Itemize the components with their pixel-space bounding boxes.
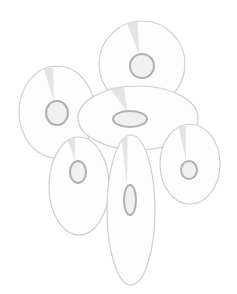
cd-discs-illustration: [0, 0, 237, 294]
discs-artwork: [0, 0, 237, 294]
disc-lower-left: [49, 137, 109, 235]
disc-bottom: [107, 135, 155, 285]
disc-right: [160, 124, 220, 204]
